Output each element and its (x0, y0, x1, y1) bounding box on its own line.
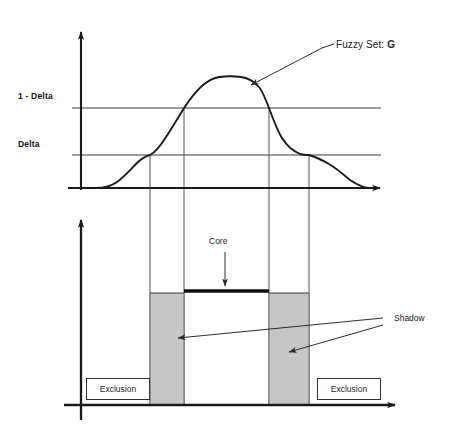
diagram-canvas (0, 0, 456, 443)
exclusion-box-left-label: Exclusion (100, 384, 136, 394)
exclusion-box-left: Exclusion (86, 378, 150, 400)
membership-curve (96, 76, 368, 188)
right-shadow-band (269, 293, 309, 405)
fuzzy-set-callout-prefix: Fuzzy Set: (336, 39, 384, 50)
fuzzy-set-callout-leader (251, 48, 322, 85)
top-plot-group (68, 32, 381, 405)
axis-label-delta: Delta (18, 140, 40, 149)
fuzzy-set-callout-symbol: G (387, 39, 395, 50)
fuzzy-set-callout-stub (322, 44, 334, 48)
left-shadow-band (150, 293, 184, 405)
fuzzy-set-diagram: 1 - Delta Delta Fuzzy Set:G Core Shadow … (0, 0, 456, 443)
shadow-callout-label: Shadow (394, 314, 425, 323)
exclusion-box-right: Exclusion (317, 378, 381, 400)
exclusion-box-right-label: Exclusion (331, 384, 367, 394)
fuzzy-set-callout-label: Fuzzy Set:G (336, 40, 395, 50)
core-callout-label: Core (209, 237, 227, 246)
axis-label-one-minus-delta: 1 - Delta (18, 92, 53, 101)
